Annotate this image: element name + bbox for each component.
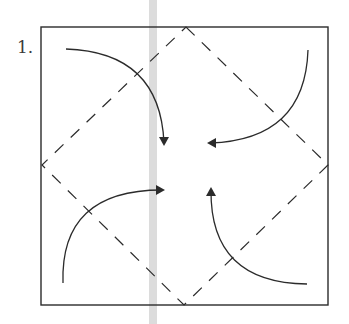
step-number: 1. <box>17 37 33 57</box>
gutter-bar <box>149 0 157 324</box>
arrowhead-icon <box>156 185 165 195</box>
paper-square <box>41 27 328 305</box>
fold-arrow-bottom-right <box>211 190 307 284</box>
fold-diagram <box>0 0 349 324</box>
arrowhead-icon <box>206 187 216 196</box>
arrowhead-icon <box>159 137 169 146</box>
fold-arrows <box>63 49 308 284</box>
arrowhead-icon <box>207 138 216 148</box>
diagram-stage: 1. <box>0 0 349 324</box>
valley-fold-lines <box>42 27 328 305</box>
